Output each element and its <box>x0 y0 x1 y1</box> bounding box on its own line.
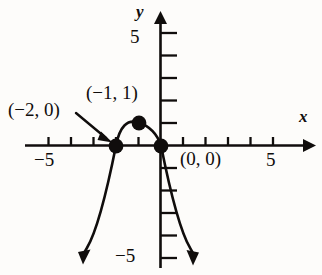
x-axis-label: x <box>299 108 308 125</box>
x-tick-label-neg5: −5 <box>34 150 54 169</box>
parabola-right-arrowhead <box>187 250 200 266</box>
point-marker-0-0 <box>154 139 169 154</box>
point-label-origin-root: (0, 0) <box>180 149 221 168</box>
point-marker-neg2-0 <box>109 139 124 154</box>
y-tick-label-neg5: −5 <box>115 246 135 265</box>
y-axis-label: y <box>136 3 144 20</box>
x-axis-arrowhead <box>303 139 316 152</box>
point-marker-neg1-1 <box>132 116 147 131</box>
y-axis-arrowhead <box>154 11 167 24</box>
point-label-vertex: (−1, 1) <box>86 83 138 102</box>
parabola-left-arrowhead <box>78 250 91 265</box>
y-tick-label-5: 5 <box>130 27 140 46</box>
x-tick-label-5: 5 <box>266 150 276 169</box>
point-label-left-root: (−2, 0) <box>8 100 60 119</box>
coordinate-plane-svg <box>0 0 322 275</box>
graph-figure: y x 5 −5 −5 5 (−2, 0) (−1, 1) (0, 0) <box>0 0 322 275</box>
